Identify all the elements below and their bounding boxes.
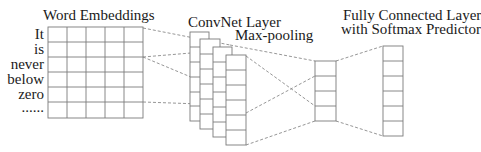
- softmax-output-vector: [383, 46, 403, 136]
- embedding-grid: [48, 27, 143, 118]
- maxpool-vector: [315, 61, 336, 121]
- convnet-feature-map-4: [226, 55, 246, 145]
- connection-lines: [143, 28, 383, 145]
